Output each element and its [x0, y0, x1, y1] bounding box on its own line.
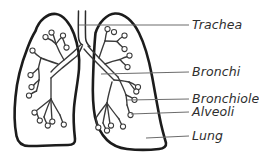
alveolus	[30, 48, 35, 53]
alveolus	[32, 110, 37, 115]
alveolus	[64, 45, 69, 50]
lung-anatomy-diagram: Trachea Bronchi Bronchioles Alveoli Lung	[0, 0, 259, 166]
alveolus	[127, 53, 132, 58]
alveolus	[134, 89, 139, 94]
label-lung: Lung	[192, 129, 223, 142]
alveolus	[125, 64, 130, 69]
alveolus	[104, 128, 109, 133]
alveolus	[105, 26, 110, 31]
alveolus	[120, 124, 125, 129]
alveolus	[111, 29, 116, 34]
alveolus	[50, 119, 55, 124]
alveolus	[28, 72, 33, 77]
alveolus	[37, 118, 42, 123]
trachea-right-wall	[85, 11, 90, 47]
label-bronchi: Bronchi	[192, 65, 240, 78]
alveolus	[61, 122, 66, 127]
alveolus	[108, 123, 113, 128]
alveolus	[60, 33, 65, 38]
label-trachea: Trachea	[192, 18, 242, 31]
alveolus	[26, 93, 31, 98]
alveolus	[128, 112, 133, 117]
alveolus	[96, 125, 101, 130]
alveolus	[49, 30, 54, 35]
alveolus	[122, 33, 127, 38]
label-alveoli: Alveoli	[192, 105, 234, 118]
right-branch-upper-3	[105, 41, 117, 42]
alveolus	[43, 34, 48, 39]
alveolus	[45, 123, 50, 128]
left-branch-mid-5	[39, 68, 40, 80]
alveolus	[122, 46, 127, 51]
alveolus	[29, 84, 34, 89]
trachea-left-wall	[78, 11, 82, 45]
